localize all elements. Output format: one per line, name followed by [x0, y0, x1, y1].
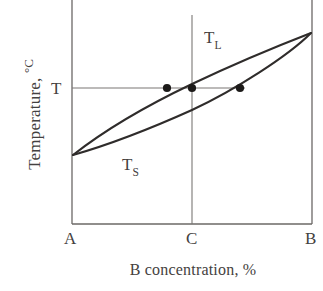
x-tick-label-c: C — [186, 230, 197, 247]
y-axis-unit: °C — [21, 59, 36, 73]
alloy-composition-point — [188, 84, 196, 92]
x-tick-label-b: B — [305, 230, 316, 247]
solidus-label-base: T — [122, 155, 132, 174]
y-tick-label-t: T — [51, 80, 61, 97]
liquidus-label-subscript: L — [214, 39, 221, 51]
liquidus-label-base: T — [204, 28, 214, 47]
solidus-label-subscript: S — [132, 166, 138, 178]
phase-diagram-plot — [0, 0, 323, 291]
solidus-curve-label: TS — [122, 156, 139, 177]
y-axis-label-text: Temperature, — [25, 73, 44, 170]
liquidus-curve-label: TL — [204, 29, 221, 50]
y-axis-label: Temperature, °C — [23, 14, 44, 214]
x-axis-label: B concentration, % — [72, 262, 314, 278]
phase-diagram-figure: Temperature, °C B concentration, % A C B… — [0, 0, 323, 291]
x-tick-label-a: A — [64, 230, 76, 247]
liquidus-composition-point — [236, 84, 244, 92]
solidus-composition-point — [163, 84, 171, 92]
